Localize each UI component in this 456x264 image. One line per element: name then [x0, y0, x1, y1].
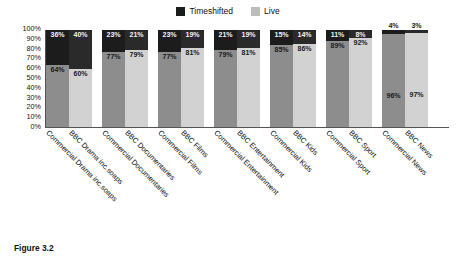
bar-group-sport: 11% 89% 8% 92%: [326, 30, 372, 127]
y-tick-label: 30%: [27, 94, 41, 101]
bar-segment-live[interactable]: 81%: [181, 48, 204, 127]
legend-label-timeshifted: Timeshifted: [189, 7, 233, 16]
bar-value-label: 81%: [185, 49, 199, 57]
bar-value-label: 14%: [297, 31, 311, 39]
bar-commercial-drama[interactable]: 36% 64%: [46, 30, 69, 127]
bar-commercial-films[interactable]: 23% 77%: [158, 30, 181, 127]
bar-value-label: 79%: [129, 51, 143, 59]
group-gap: [204, 30, 214, 127]
y-tick-label: 0%: [31, 123, 41, 130]
bar-group-entertainment: 21% 79% 19% 81%: [214, 30, 260, 127]
bar-value-label: 89%: [330, 42, 344, 50]
bar-commercial-sport[interactable]: 11% 89%: [326, 30, 349, 127]
chart-legend: Timeshifted Live: [0, 7, 456, 16]
bar-commercial-entertainment[interactable]: 21% 79%: [214, 30, 237, 127]
bar-segment-live[interactable]: 77%: [102, 52, 125, 127]
bar-segment-live[interactable]: 97%: [405, 33, 428, 127]
y-tick-label: 20%: [27, 103, 41, 110]
bar-value-label: 77%: [162, 53, 176, 61]
bar-bbc-documentaries[interactable]: 21% 79%: [125, 30, 148, 127]
figure-container: Timeshifted Live 100% 90% 80% 70% 60% 50…: [0, 0, 456, 264]
group-gap: [92, 30, 102, 127]
bar-value-label: 21%: [129, 31, 143, 39]
bar-segment-live[interactable]: 79%: [214, 50, 237, 127]
bar-value-label: 97%: [409, 91, 423, 99]
bar-segment-timeshifted[interactable]: 21%: [125, 30, 148, 50]
y-tick-label: 90%: [27, 35, 41, 42]
group-gap: [316, 30, 326, 127]
bar-value-label: 3%: [411, 22, 421, 30]
bar-bbc-entertainment[interactable]: 19% 81%: [237, 30, 260, 127]
bar-segment-live[interactable]: 89%: [326, 41, 349, 127]
bar-value-label: 81%: [241, 49, 255, 57]
bar-segment-live[interactable]: 64%: [46, 65, 69, 127]
bar-segment-live[interactable]: 77%: [158, 52, 181, 127]
bar-commercial-news[interactable]: 4% 96%: [382, 30, 405, 127]
bar-value-label: 19%: [241, 31, 255, 39]
legend-swatch-icon: [251, 7, 260, 16]
bar-series-container: 36% 64% 40% 60%: [46, 30, 449, 127]
bar-value-label: 40%: [73, 31, 87, 39]
group-gap: [148, 30, 158, 127]
bar-segment-live[interactable]: 81%: [237, 48, 260, 127]
bar-value-label: 85%: [274, 46, 288, 54]
bar-value-label: 23%: [106, 31, 120, 39]
bar-segment-live[interactable]: 96%: [382, 34, 405, 127]
bar-bbc-kids[interactable]: 14% 86%: [293, 30, 316, 127]
bar-segment-timeshifted[interactable]: 21%: [214, 30, 237, 50]
bar-segment-timeshifted[interactable]: 8%: [349, 30, 372, 38]
bar-value-label: 11%: [331, 31, 345, 39]
y-tick-label: 60%: [27, 64, 41, 71]
y-tick-label: 100%: [23, 25, 41, 32]
legend-label-live: Live: [264, 7, 280, 16]
bar-value-label: 96%: [386, 92, 400, 100]
bar-value-label: 86%: [297, 45, 311, 53]
bar-bbc-sport[interactable]: 8% 92%: [349, 30, 372, 127]
group-gap: [372, 30, 382, 127]
bar-segment-timeshifted[interactable]: 19%: [181, 30, 204, 48]
bar-value-label: 79%: [218, 51, 232, 59]
bar-segment-timeshifted[interactable]: 11%: [326, 30, 349, 41]
bar-segment-timeshifted[interactable]: 23%: [102, 30, 125, 52]
y-tick-label: 80%: [27, 45, 41, 52]
bar-commercial-documentaries[interactable]: 23% 77%: [102, 30, 125, 127]
bar-segment-live[interactable]: 85%: [270, 45, 293, 127]
bar-value-label: 36%: [50, 31, 64, 39]
bar-value-label: 19%: [185, 31, 199, 39]
bar-value-label: 64%: [50, 66, 64, 74]
bar-value-label: 92%: [353, 39, 367, 47]
bar-commercial-kids[interactable]: 15% 85%: [270, 30, 293, 127]
bar-segment-timeshifted[interactable]: 15%: [270, 30, 293, 45]
y-tick-label: 40%: [27, 84, 41, 91]
bar-segment-timeshifted[interactable]: 23%: [158, 30, 181, 52]
bar-segment-live[interactable]: 86%: [293, 44, 316, 127]
bar-segment-timeshifted[interactable]: 19%: [237, 30, 260, 48]
bar-value-label: 77%: [106, 53, 120, 61]
bar-group-documentaries: 23% 77% 21% 79%: [102, 30, 148, 127]
y-tick-label: 50%: [27, 74, 41, 81]
bar-value-label: 60%: [73, 70, 87, 78]
bar-bbc-films[interactable]: 19% 81%: [181, 30, 204, 127]
bar-segment-timeshifted[interactable]: 40%: [69, 30, 92, 69]
bar-bbc-news[interactable]: 3% 97%: [405, 30, 428, 127]
bar-group-films: 23% 77% 19% 81%: [158, 30, 204, 127]
y-tick-label: 10%: [27, 113, 41, 120]
bar-segment-live[interactable]: 92%: [349, 38, 372, 127]
y-axis: 100% 90% 80% 70% 60% 50% 40% 30% 20% 10%…: [3, 25, 43, 133]
group-gap: [260, 30, 270, 127]
bar-segment-timeshifted[interactable]: 36%: [46, 30, 69, 65]
bar-group-news: 4% 96% 3% 97%: [382, 30, 428, 127]
bar-segment-live[interactable]: 79%: [125, 50, 148, 127]
figure-caption: Figure 3.2: [14, 243, 54, 253]
bar-segment-timeshifted[interactable]: 14%: [293, 30, 316, 44]
plot-area: 100% 90% 80% 70% 60% 50% 40% 30% 20% 10%…: [45, 30, 449, 128]
y-tick-label: 70%: [27, 54, 41, 61]
bar-bbc-drama[interactable]: 40% 60%: [69, 30, 92, 127]
bar-segment-live[interactable]: 60%: [69, 69, 92, 127]
bar-value-label: 15%: [274, 31, 288, 39]
bar-value-label: 21%: [218, 31, 232, 39]
bar-group-drama: 36% 64% 40% 60%: [46, 30, 92, 127]
bar-value-label: 4%: [388, 22, 398, 30]
legend-swatch-icon: [176, 7, 185, 16]
legend-item-live: Live: [251, 7, 280, 16]
